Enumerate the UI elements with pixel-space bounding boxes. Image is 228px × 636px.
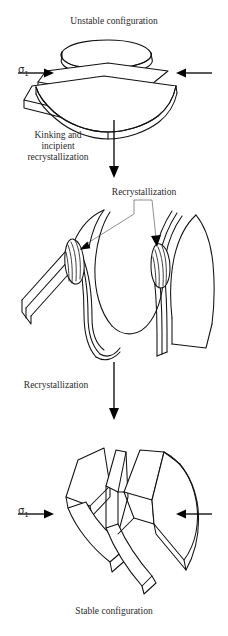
step-label-kinking: Kinking and incipient recrystallization <box>8 130 108 164</box>
recrystallization-annotation: Recrystallization <box>88 187 200 198</box>
stage-unstable-drawing <box>0 0 228 636</box>
stress-label-bottom: σ1 <box>18 493 52 519</box>
diagram-root: Unstable configuration <box>0 0 228 636</box>
step-label-recrystallization: Recrystallization <box>6 380 106 391</box>
bottom-caption: Stable configuration <box>0 606 228 617</box>
sigma-subscript-bottom: 1 <box>24 511 28 519</box>
sigma-subscript: 1 <box>24 70 28 78</box>
stress-label-top: σ1 <box>18 52 52 78</box>
